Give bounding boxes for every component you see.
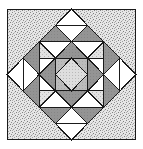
quilt-block	[7, 9, 136, 140]
quilt-block-image: Patchwork Quilt Block	[0, 0, 143, 149]
quilt-block-svg	[0, 0, 143, 149]
